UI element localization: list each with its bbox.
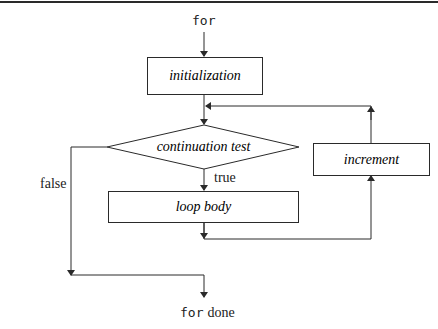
- increment-label: increment: [313, 143, 430, 176]
- edge-to-done: [71, 275, 204, 297]
- continuation-test-label: continuation test: [107, 125, 300, 169]
- for-done-label: for done: [180, 303, 235, 321]
- initialization-label: initialization: [147, 57, 263, 95]
- for-entry-label: for: [192, 13, 215, 28]
- for-done-suffix: done: [207, 305, 234, 320]
- for-done-keyword: for: [180, 305, 203, 320]
- edge-false: [71, 147, 107, 275]
- false-label: false: [40, 176, 66, 192]
- loop-body-label: loop body: [108, 191, 299, 223]
- true-label: true: [214, 170, 236, 186]
